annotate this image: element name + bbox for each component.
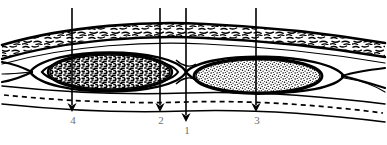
callout-label-4: 4 (66, 115, 80, 126)
histology-figure: 4 2 1 3 (0, 0, 387, 145)
lower-band-group (2, 86, 385, 122)
callout-label-3: 3 (250, 115, 264, 126)
figure-illustration (0, 0, 387, 145)
callout-label-1: 1 (180, 125, 194, 136)
dark-stippled-oval-group (30, 53, 186, 93)
callout-label-2: 2 (154, 115, 168, 126)
light-stippled-oval-group (186, 57, 344, 94)
